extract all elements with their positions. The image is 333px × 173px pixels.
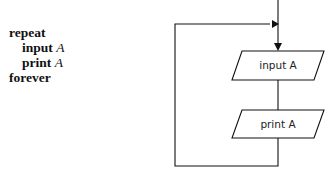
print-box-label: print A	[260, 118, 296, 130]
down-arrowhead-icon	[274, 43, 282, 51]
loop-back-line	[175, 24, 278, 166]
input-box-label: input A	[259, 59, 297, 71]
flowchart: input A print A	[0, 0, 333, 173]
